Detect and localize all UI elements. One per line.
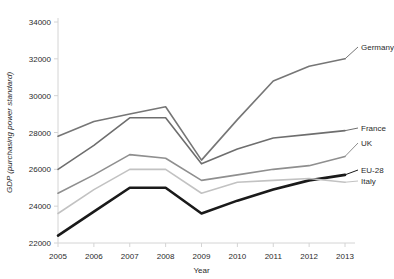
series-label-germany: Germany [361,43,394,52]
x-axis-title: Year [193,266,210,275]
series-line-france [58,118,345,170]
y-tick-label: 30000 [29,92,52,101]
y-tick-label: 34000 [29,18,52,27]
x-tick-label: 2009 [193,252,211,261]
series-label-italy: Italy [361,177,376,186]
x-axis-tick-group: 200520062007200820092010201120122013 [49,243,354,261]
y-axis-tick-group: 22000240002600028000300003200034000 [29,18,58,248]
series-leader-uk [345,143,358,156]
y-tick-label: 26000 [29,165,52,174]
series-leader-germany [345,47,358,59]
series-leader-france [345,128,358,131]
x-tick-label: 2012 [300,252,318,261]
series-label-eu-28: EU-28 [361,166,384,175]
data-series-group [58,47,358,236]
series-line-eu-28 [58,175,345,236]
y-tick-label: 22000 [29,239,52,248]
y-tick-label: 24000 [29,202,52,211]
series-label-uk: UK [361,139,373,148]
series-label-group: GermanyFranceUKEU-28Italy [361,43,394,186]
x-tick-label: 2011 [265,252,283,261]
x-tick-label: 2007 [121,252,139,261]
y-axis-title: GDP (purchasing power standard) [5,72,14,193]
series-leader-eu-28 [345,170,358,175]
chart-canvas: 22000240002600028000300003200034000 2005… [0,0,394,279]
x-tick-label: 2008 [157,252,175,261]
x-tick-label: 2013 [336,252,354,261]
y-tick-label: 28000 [29,129,52,138]
x-tick-label: 2005 [49,252,67,261]
y-tick-label: 32000 [29,55,52,64]
x-tick-label: 2010 [228,252,246,261]
series-line-germany [58,59,345,160]
gdp-line-chart: 22000240002600028000300003200034000 2005… [0,0,394,279]
x-tick-label: 2006 [85,252,103,261]
series-leader-italy [345,181,358,182]
series-label-france: France [361,124,386,133]
